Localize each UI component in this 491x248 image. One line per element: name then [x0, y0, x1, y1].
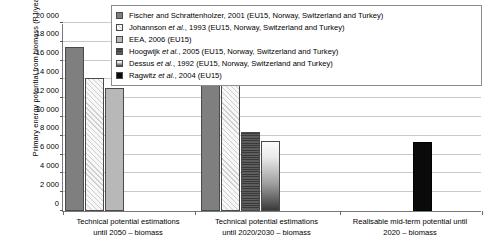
x-tick-mark: [340, 211, 341, 215]
y-tick-label: 6 000: [40, 142, 59, 151]
y-tick-mark: [60, 191, 63, 192]
y-tick-label: 4 000: [40, 160, 59, 169]
legend-swatch-johannson: [116, 24, 123, 31]
y-tick-label: 8 000: [40, 123, 59, 132]
legend-swatch-hoogwijk: [116, 48, 123, 55]
y-tick-label: 0: [55, 198, 59, 207]
chart-figure: Primary energy potential from biomass (P…: [0, 0, 491, 248]
x-category-label-1: Technical potential estimationsuntil 205…: [62, 217, 194, 238]
y-tick-label: 12 000: [36, 85, 59, 94]
y-tick-mark: [60, 116, 63, 117]
legend-label-fischer: Fischer and Schrattenholzer, 2001 (EU15,…: [129, 11, 383, 20]
x-category-label-line: until 2050 – biomass: [62, 228, 194, 239]
legend-label-dessus: Dessus et al., 1992 (EU15, Norway, Switz…: [129, 59, 333, 68]
chart-legend: Fischer and Schrattenholzer, 2001 (EU15,…: [111, 5, 482, 86]
bar-dessus-group2: [261, 141, 280, 212]
y-tick-mark: [60, 22, 63, 23]
bar-ragwitz-group3: [413, 142, 432, 211]
y-tick-mark: [60, 154, 63, 155]
legend-label-eea: EEA, 2006 (EU15): [129, 35, 191, 44]
y-tick-mark: [60, 97, 63, 98]
legend-item-dessus[interactable]: Dessus et al., 1992 (EU15, Norway, Switz…: [116, 57, 476, 69]
legend-item-johannson[interactable]: Johannson et al., 1993 (EU15, Norway, Sw…: [116, 21, 476, 33]
gridline: [63, 116, 481, 117]
x-tick-mark: [482, 211, 483, 215]
y-tick-label: 10 000: [36, 104, 59, 113]
y-tick-mark: [60, 172, 63, 173]
legend-label-ragwitz: Ragwitz et al., 2004 (EU15): [129, 71, 222, 80]
y-tick-mark: [60, 60, 63, 61]
x-tick-mark: [195, 211, 196, 215]
x-category-label-line: until 2020/2030 – biomass: [194, 228, 339, 239]
legend-item-ragwitz[interactable]: Ragwitz et al., 2004 (EU15): [116, 69, 476, 81]
y-tick-label: 14 000: [36, 66, 59, 75]
y-tick-label: 2 000: [40, 179, 59, 188]
bar-fischer-group2: [201, 83, 220, 211]
gridline: [63, 97, 481, 98]
bar-johannson-group2: [221, 78, 240, 211]
y-tick-label: 16 000: [36, 48, 59, 57]
legend-label-hoogwijk: Hoogwijk et al., 2005 (EU15, Norway, Swi…: [129, 47, 338, 56]
legend-swatch-ragwitz: [116, 72, 123, 79]
x-category-label-line: Technical potential estimations: [194, 217, 339, 228]
x-category-label-line: Realisable mid-term potential until: [339, 217, 481, 228]
bar-hoogwijk-group2: [241, 132, 260, 211]
legend-swatch-eea: [116, 36, 123, 43]
legend-swatch-dessus: [116, 60, 123, 67]
y-tick-label: 18 000: [36, 29, 59, 38]
x-tick-mark: [63, 211, 64, 215]
y-tick-mark: [60, 78, 63, 79]
legend-swatch-fischer: [116, 12, 123, 19]
x-category-label-3: Realisable mid-term potential until2020 …: [339, 217, 481, 238]
y-tick-mark: [60, 135, 63, 136]
bar-johannson-group1: [85, 78, 104, 211]
y-tick-label: 20 000: [36, 10, 59, 19]
y-tick-mark: [60, 41, 63, 42]
y-axis-title: Primary energy potential from biomass (P…: [31, 0, 40, 165]
x-category-label-2: Technical potential estimationsuntil 202…: [194, 217, 339, 238]
bar-eea-group1: [105, 88, 124, 211]
x-category-label-line: 2020 – biomass: [339, 228, 481, 239]
legend-label-johannson: Johannson et al., 1993 (EU15, Norway, Sw…: [129, 23, 345, 32]
legend-item-hoogwijk[interactable]: Hoogwijk et al., 2005 (EU15, Norway, Swi…: [116, 45, 476, 57]
bar-fischer-group1: [65, 47, 84, 211]
legend-item-fischer[interactable]: Fischer and Schrattenholzer, 2001 (EU15,…: [116, 9, 476, 21]
gridline: [63, 135, 481, 136]
x-category-label-line: Technical potential estimations: [62, 217, 194, 228]
legend-item-eea[interactable]: EEA, 2006 (EU15): [116, 33, 476, 45]
